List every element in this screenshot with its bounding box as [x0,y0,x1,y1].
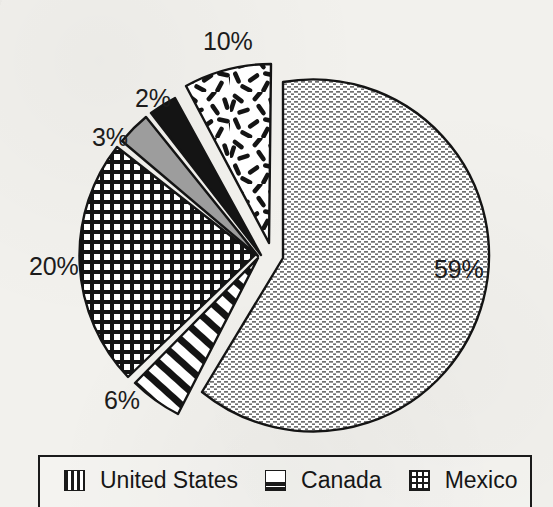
slice-label-10: 10% [203,27,252,56]
legend-item-canada: Canada [265,467,382,494]
legend-item-united-states: United States [64,467,238,494]
pie-chart-figure: 59% 6% 20% 3% 2% 10% [0,0,553,440]
grid-swatch-icon [409,470,430,491]
slice-label-20: 20% [29,252,78,281]
legend-items-row: United States Canada Mexico [40,457,530,503]
dotted-stipple-swatch-icon [64,470,85,491]
slice-label-2: 2% [135,84,171,113]
slice-label-3: 3% [92,123,128,152]
chart-legend: United States Canada Mexico [38,455,532,507]
legend-label-mexico: Mexico [445,467,518,494]
horizontal-bands-swatch-icon [265,470,286,491]
slice-label-59: 59% [434,255,483,284]
slice-label-6: 6% [104,386,140,415]
pie-slice-20 [79,147,255,377]
pie-chart-page: 59% 6% 20% 3% 2% 10% United States Canad… [0,0,553,507]
legend-item-mexico: Mexico [409,467,518,494]
pie-chart-svg [0,0,553,440]
legend-label-canada: Canada [301,467,382,494]
legend-label-united-states: United States [100,467,238,494]
